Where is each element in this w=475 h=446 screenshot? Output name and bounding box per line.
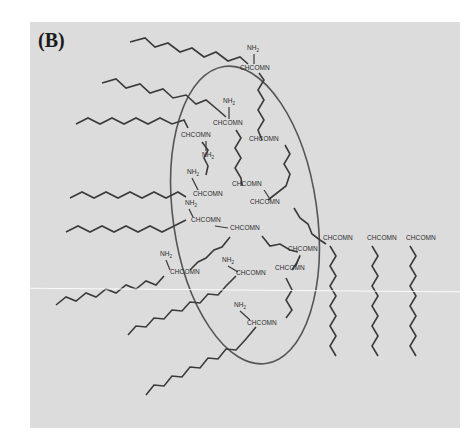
chcomn-label: CHCOMN: [230, 224, 260, 231]
chcomn-label: CHCOMN: [213, 119, 243, 126]
chcomn-label: CHCOMN: [181, 131, 211, 138]
panel-label: (B): [38, 29, 65, 52]
chcomn-label: CHCOMN: [249, 135, 279, 142]
chcomn-label: CHCOMN: [367, 234, 397, 241]
chcomn-label: CHCOMN: [288, 245, 318, 252]
chemical-structure-figure: (B) NH2CHCOMNNH2CHCOMNCHCOMNCHCOMNNH2NH2…: [0, 0, 475, 446]
chcomn-label: CHCOMN: [232, 180, 262, 187]
chcomn-label: CHCOMN: [406, 234, 436, 241]
chcomn-label: CHCOMN: [250, 198, 280, 205]
chcomn-label: CHCOMN: [247, 319, 277, 326]
chcomn-label: CHCOMN: [191, 216, 221, 223]
chcomn-label: CHCOMN: [275, 264, 305, 271]
chcomn-label: CHCOMN: [240, 64, 270, 71]
chcomn-label: CHCOMN: [193, 190, 223, 197]
chcomn-label: CHCOMN: [236, 269, 266, 276]
chcomn-label: CHCOMN: [170, 268, 200, 275]
chcomn-label: CHCOMN: [323, 234, 353, 241]
